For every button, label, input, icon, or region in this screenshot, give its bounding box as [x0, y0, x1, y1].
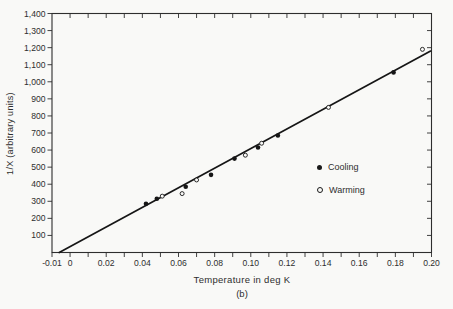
svg-text:400: 400: [31, 179, 46, 189]
svg-text:700: 700: [31, 128, 46, 138]
svg-text:0.16: 0.16: [351, 258, 368, 268]
legend-item-warming: Warming: [317, 183, 365, 197]
svg-text:0.04: 0.04: [134, 258, 151, 268]
svg-text:1,200: 1,200: [24, 43, 46, 53]
svg-text:0.06: 0.06: [170, 258, 187, 268]
svg-text:1,100: 1,100: [24, 60, 46, 70]
svg-text:0: 0: [68, 258, 73, 268]
svg-text:1,000: 1,000: [24, 77, 46, 87]
svg-text:100: 100: [31, 230, 46, 240]
svg-text:0.18: 0.18: [387, 258, 404, 268]
svg-text:0.12: 0.12: [279, 258, 296, 268]
figure: -0.0100.020.040.060.080.100.120.140.160.…: [0, 0, 453, 309]
legend-item-cooling: Cooling: [317, 160, 365, 174]
svg-text:0.10: 0.10: [242, 258, 259, 268]
svg-text:300: 300: [31, 196, 46, 206]
svg-text:200: 200: [31, 213, 46, 223]
svg-text:0.02: 0.02: [98, 258, 115, 268]
x-axis-title: Temperature in deg K: [52, 274, 432, 285]
legend-label-warming: Warming: [329, 185, 365, 195]
svg-text:1,300: 1,300: [24, 26, 46, 36]
svg-text:900: 900: [31, 94, 46, 104]
svg-text:600: 600: [31, 145, 46, 155]
open-circle-marker-icon: [317, 187, 323, 193]
svg-text:-0.01: -0.01: [42, 258, 62, 268]
svg-text:500: 500: [31, 162, 46, 172]
plot-area: -0.0100.020.040.060.080.100.120.140.160.…: [0, 0, 453, 309]
y-axis-title: 1/X (arbitrary units): [5, 49, 18, 219]
legend-label-cooling: Cooling: [328, 162, 359, 172]
svg-text:0.20: 0.20: [423, 258, 440, 268]
svg-text:0.14: 0.14: [315, 258, 332, 268]
svg-text:0.08: 0.08: [206, 258, 223, 268]
legend: Cooling Warming: [317, 160, 365, 206]
filled-circle-marker-icon: [317, 165, 322, 170]
subfigure-label: (b): [52, 288, 432, 299]
svg-text:800: 800: [31, 111, 46, 121]
svg-text:1,400: 1,400: [24, 9, 46, 19]
